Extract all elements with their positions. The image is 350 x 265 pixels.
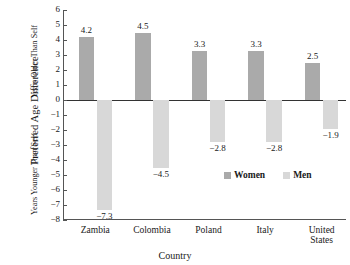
y-axis-tick	[63, 205, 67, 206]
bar-men-poland[interactable]	[210, 100, 226, 142]
y-axis-tick	[63, 115, 67, 116]
x-axis-title: Country	[0, 250, 350, 261]
legend: Women Men	[224, 170, 312, 180]
y-axis-tick-label: −4	[50, 155, 60, 164]
y-axis-tick	[63, 160, 67, 161]
legend-label-men: Men	[293, 170, 311, 180]
legend-item-men[interactable]: Men	[283, 170, 311, 180]
bar-women-zambia[interactable]	[79, 37, 95, 100]
bar-chart: Preferred Age Difference Years Older Tha…	[0, 0, 350, 265]
y-axis-tick	[63, 55, 67, 56]
bar-value-label: −2.8	[254, 144, 294, 153]
y-axis-tick-label: 3	[56, 50, 61, 59]
y-axis-tick-label: −3	[50, 140, 60, 149]
bar-value-label: −4.5	[141, 170, 181, 179]
y-axis-tick	[63, 175, 67, 176]
legend-swatch-men-icon	[283, 172, 290, 179]
bar-value-label: 3.3	[236, 40, 276, 49]
bar-men-zambia[interactable]	[97, 100, 113, 210]
y-axis-tick-label: 2	[56, 65, 61, 74]
y-axis-tick-label: 0	[56, 95, 61, 104]
plot-area: 4.2−7.34.5−4.53.3−2.83.3−2.82.5−1.9	[63, 10, 346, 220]
bar-men-italy[interactable]	[266, 100, 282, 142]
y-axis-sublabel-lower: Years Younger Than Self	[30, 133, 39, 215]
y-axis-tick	[63, 40, 67, 41]
bar-value-label: −2.8	[198, 144, 238, 153]
legend-swatch-women-icon	[224, 172, 231, 179]
bar-women-poland[interactable]	[192, 51, 208, 101]
y-axis-tick	[63, 145, 67, 146]
y-axis-tick-label: 1	[56, 80, 61, 89]
y-axis-tick	[63, 190, 67, 191]
y-axis-tick-labels: 6543210−1−2−3−4−5−6−7−8	[40, 10, 60, 220]
bar-value-label: −1.9	[311, 131, 350, 140]
y-axis-tick	[63, 130, 67, 131]
bar-women-italy[interactable]	[248, 51, 264, 101]
y-axis-tick-label: −8	[50, 215, 60, 224]
y-axis-tick-label: −7	[50, 200, 60, 209]
bar-women-united-states[interactable]	[305, 63, 321, 101]
bar-value-label: 4.2	[66, 26, 106, 35]
y-axis-tick-label: −2	[50, 125, 60, 134]
y-axis-tick	[63, 70, 67, 71]
y-axis-tick-label: −1	[50, 110, 60, 119]
bar-value-label: 3.3	[180, 40, 220, 49]
y-axis-tick	[63, 10, 67, 11]
y-axis-sublabel-upper: Years Older Than Self	[30, 25, 39, 98]
bar-men-united-states[interactable]	[323, 100, 339, 129]
bar-value-label: 4.5	[123, 22, 163, 31]
bar-women-colombia[interactable]	[135, 33, 151, 101]
bar-value-label: 2.5	[293, 52, 333, 61]
x-axis-category-label: United States	[287, 225, 350, 246]
bar-men-colombia[interactable]	[153, 100, 169, 168]
y-axis-tick	[63, 220, 67, 221]
y-axis-tick-label: −5	[50, 170, 60, 179]
bar-value-label: −7.3	[84, 212, 124, 221]
legend-label-women: Women	[234, 170, 265, 180]
y-axis-tick-label: 5	[56, 20, 61, 29]
y-axis-tick-label: 4	[56, 35, 61, 44]
legend-item-women[interactable]: Women	[224, 170, 265, 180]
y-axis-tick-label: 6	[56, 5, 61, 14]
y-axis-tick	[63, 85, 67, 86]
y-axis-tick-label: −6	[50, 185, 60, 194]
y-axis-tick	[63, 100, 67, 101]
